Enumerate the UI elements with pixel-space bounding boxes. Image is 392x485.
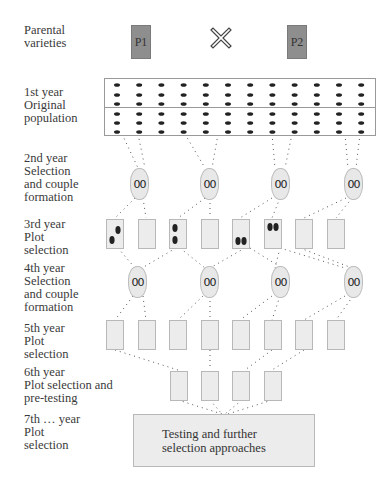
plot-year3	[138, 219, 156, 249]
plot-year3	[201, 219, 219, 249]
plot-year3	[327, 219, 345, 249]
couple-oval: 00	[200, 266, 219, 298]
original-population	[104, 78, 376, 136]
plot-year6	[170, 371, 188, 401]
couple-oval: 00	[344, 266, 363, 298]
couple-oval: 00	[344, 168, 363, 200]
couple-oval: 00	[130, 168, 149, 200]
plot-year6	[264, 371, 282, 401]
plot-year6	[201, 371, 219, 401]
couple-oval: 00	[128, 266, 147, 298]
plot-year5	[232, 320, 250, 350]
plot-year5	[201, 320, 219, 350]
plot-year5	[106, 320, 124, 350]
population-plants	[105, 79, 375, 135]
final-testing-label: Testing and further selection approaches	[162, 427, 266, 455]
plot-year3	[264, 219, 282, 249]
final-testing-box: Testing and further selection approaches	[133, 414, 315, 467]
couple-oval: 00	[271, 266, 290, 298]
couple-oval: 00	[200, 168, 219, 200]
plot-year5	[264, 320, 282, 350]
plot-year3	[295, 219, 313, 249]
couple-oval: 00	[271, 168, 290, 200]
plot-year5	[138, 320, 156, 350]
plot-year3	[106, 219, 124, 249]
plot-year6	[232, 371, 250, 401]
plot-year5	[327, 320, 345, 350]
plot-year5	[295, 320, 313, 350]
plot-year3	[169, 219, 187, 249]
plot-year5	[169, 320, 187, 350]
plot-year3	[232, 219, 250, 249]
